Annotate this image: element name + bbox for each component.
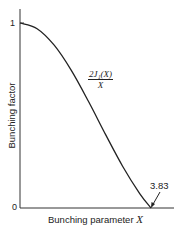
plot-area: [0, 0, 174, 227]
y-tick-label-0: 0: [12, 202, 17, 212]
formula-numerator: 2J₁(X): [88, 69, 113, 80]
intercept-label: 3.83: [150, 180, 169, 191]
x-axis-label: Bunching parameter X: [48, 213, 143, 225]
formula-denominator: X: [88, 80, 113, 90]
y-axis-label: Bunching factor: [6, 76, 17, 156]
curve-formula-label: 2J₁(X) X: [88, 69, 113, 90]
y-tick-label-1: 1: [10, 18, 15, 28]
arrow-head-icon: [151, 202, 155, 208]
bunching-curve: [20, 23, 151, 208]
